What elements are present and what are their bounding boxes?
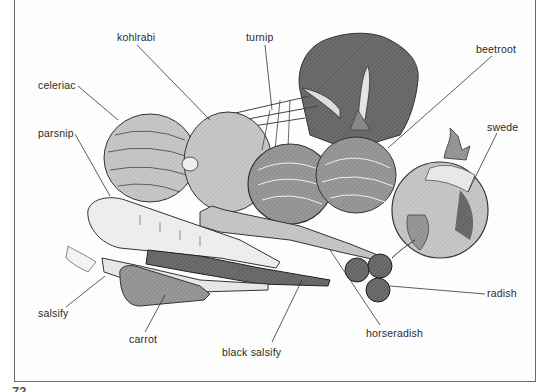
beetroot-leaves [299, 33, 418, 150]
label-carrot: carrot [129, 333, 157, 345]
leader-radish [390, 286, 485, 294]
label-swede: swede [487, 121, 518, 133]
leader-swede [468, 133, 497, 192]
label-radish: radish [487, 287, 517, 299]
leader-kohlrabi [137, 45, 210, 120]
label-horseradish: horseradish [366, 327, 423, 339]
vegetable-illustration [0, 0, 545, 392]
label-parsnip: parsnip [38, 127, 74, 139]
page-number: 72 [12, 385, 26, 392]
leader-black-salsify [272, 280, 302, 342]
swede [392, 128, 488, 258]
leader-celeriac [78, 86, 118, 120]
label-turnip: turnip [246, 31, 273, 43]
celeriac [104, 114, 196, 202]
leader-turnip [265, 45, 272, 110]
label-celeriac: celeriac [38, 79, 76, 91]
label-black-salsify: black salsify [222, 346, 281, 358]
label-salsify: salsify [38, 307, 69, 319]
label-beetroot: beetroot [476, 43, 516, 55]
leader-salsify [66, 276, 105, 307]
beetroot [316, 137, 396, 213]
label-kohlrabi: kohlrabi [117, 31, 155, 43]
